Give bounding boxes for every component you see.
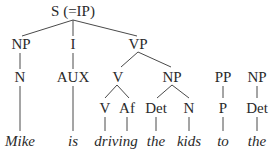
word-the: the <box>147 133 166 149</box>
edge-s-vp <box>73 20 137 36</box>
word-kids: kids <box>177 133 201 149</box>
node-aux: AUX <box>57 69 90 85</box>
node-i: I <box>71 36 76 52</box>
node-np-object: NP <box>162 69 181 85</box>
edge-vp-np <box>138 52 171 67</box>
word-the-final: the <box>248 133 267 149</box>
node-pp: PP <box>215 69 232 85</box>
node-root-s: S (=IP) <box>51 3 95 20</box>
edge-vp-v <box>121 52 138 67</box>
node-det: Det <box>145 100 167 116</box>
node-v-stem: V <box>100 100 111 116</box>
edge-np-det <box>157 85 172 98</box>
syntax-tree-diagram: S (=IP) NP I VP N AUX V NP PP NP V Af De… <box>0 0 279 153</box>
node-n-subject: N <box>15 69 26 85</box>
edge-np-n2 <box>172 85 189 98</box>
edge-s-np <box>22 20 73 36</box>
node-np-subject: NP <box>11 36 30 52</box>
edge-v-v <box>105 85 117 98</box>
word-mike: Mike <box>4 133 35 149</box>
node-v: V <box>113 69 124 85</box>
node-np-final: NP <box>247 69 266 85</box>
edge-v-af <box>117 85 129 98</box>
node-n-object: N <box>184 100 195 116</box>
word-to: to <box>217 133 229 149</box>
tree-nodes: S (=IP) NP I VP N AUX V NP PP NP V Af De… <box>11 3 268 116</box>
node-af: Af <box>119 100 135 116</box>
node-p: P <box>219 100 227 116</box>
tree-words: Mike is driving the kids to the <box>4 133 266 149</box>
node-det-final: Det <box>246 100 268 116</box>
word-driving: driving <box>94 133 138 149</box>
word-is: is <box>68 133 78 149</box>
node-vp: VP <box>128 36 147 52</box>
